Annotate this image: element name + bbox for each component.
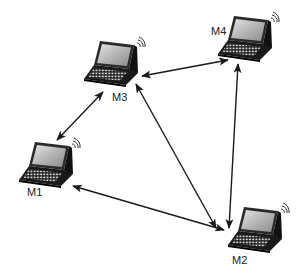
node-label-m4: M4 (211, 25, 226, 37)
laptop-icon-m2 (228, 203, 289, 253)
node-label-m3: M3 (112, 91, 127, 103)
edge-m3-m4 (142, 60, 228, 76)
edge-m1-m2 (73, 186, 224, 230)
node-label-m2: M2 (232, 254, 247, 266)
laptop-icon-m3 (84, 37, 145, 87)
edge-m1-m3 (57, 92, 103, 140)
edge-m4-m2 (229, 64, 238, 228)
network-diagram (0, 0, 304, 275)
edge-m3-m2 (136, 84, 216, 228)
node-label-m1: M1 (27, 186, 42, 198)
laptop-icon-m4 (218, 12, 279, 62)
laptop-icon-m1 (19, 138, 80, 188)
